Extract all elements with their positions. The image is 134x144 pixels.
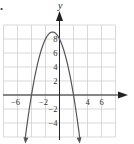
y-axis-label: y bbox=[57, 0, 63, 11]
axes bbox=[3, 11, 128, 140]
x-tick-label: −2 bbox=[39, 97, 48, 107]
parabola-chart: y . −6−2468642−2−4 bbox=[0, 0, 134, 144]
y-tick-label: 6 bbox=[53, 48, 57, 58]
x-tick-label: −6 bbox=[11, 97, 20, 107]
x-axis-arrow-icon bbox=[118, 92, 128, 99]
y-axis-arrow-icon bbox=[56, 11, 63, 21]
curve-arrow-left-icon bbox=[23, 137, 28, 143]
y-tick-label: −2 bbox=[48, 104, 57, 114]
y-tick-label: −4 bbox=[48, 118, 58, 128]
bullet-mark: . bbox=[0, 0, 3, 13]
y-tick-label: 2 bbox=[53, 76, 57, 86]
x-tick-label: 4 bbox=[85, 97, 90, 107]
x-tick-label: 6 bbox=[99, 97, 103, 107]
curve-arrow-right-icon bbox=[77, 137, 82, 143]
